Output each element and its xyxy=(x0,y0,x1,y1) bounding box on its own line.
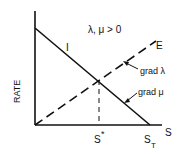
condition-label: λ, μ > 0 xyxy=(88,24,122,35)
grad-mu-label: grad μ xyxy=(138,87,164,97)
s-total-marker: S T xyxy=(144,134,156,150)
rate-diagram: λ, μ > 0 I E grad λ grad μ RATE S S * S … xyxy=(0,0,181,154)
curve-I xyxy=(35,28,150,125)
svg-text:S: S xyxy=(144,134,151,145)
grad-mu-arrow-icon xyxy=(124,93,137,103)
x-axis-label: S xyxy=(165,127,172,138)
svg-text:S: S xyxy=(94,134,101,145)
s-star-marker: S * xyxy=(94,129,105,145)
grad-lambda-arrow-icon xyxy=(123,61,138,69)
y-axis-label: RATE xyxy=(12,80,22,103)
curve-I-label: I xyxy=(66,42,69,53)
svg-text:T: T xyxy=(151,141,156,150)
svg-text:*: * xyxy=(101,129,105,139)
curve-E xyxy=(35,41,156,125)
curve-E-label: E xyxy=(156,40,163,51)
grad-lambda-label: grad λ xyxy=(140,66,166,76)
